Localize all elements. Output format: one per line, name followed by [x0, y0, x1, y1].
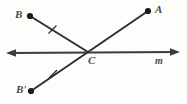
line-m-arrowhead-left [6, 49, 16, 57]
line-m-shaft [10, 52, 175, 53]
point-label-c: C [88, 55, 95, 66]
point-dot-a [145, 8, 151, 14]
segment-b-prime-a-shaft [31, 11, 148, 91]
point-label-a: A [155, 4, 162, 15]
segment-b-prime-to-a [31, 11, 148, 91]
geometry-canvas [0, 0, 187, 104]
line-m-arrowhead-right [170, 48, 180, 56]
point-label-b: B [15, 9, 22, 20]
geometry-figure: B A C B' m [0, 0, 187, 104]
segment-b-to-c [30, 16, 88, 52]
line-label-m: m [155, 56, 163, 66]
segment-b-c-shaft [30, 16, 88, 52]
point-dot-b-prime [28, 88, 34, 94]
point-dot-b [27, 13, 33, 19]
point-label-b-prime: B' [16, 84, 26, 95]
